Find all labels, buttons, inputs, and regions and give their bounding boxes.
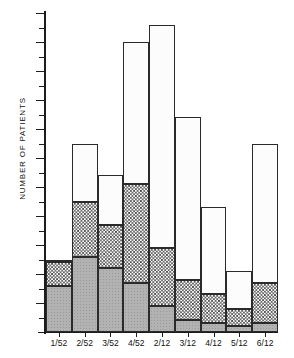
bar-segment-bottom-segment-4-12 xyxy=(201,323,227,332)
plot-area xyxy=(46,13,278,332)
x-tick-5-12 xyxy=(239,333,240,337)
y-tick-minor-25 xyxy=(39,260,45,261)
bar-2-12 xyxy=(149,25,175,332)
bar-segment-top-segment-2-12 xyxy=(149,25,175,248)
bar-segment-top-segment-1-52 xyxy=(46,260,72,263)
bar-4-12 xyxy=(201,207,227,332)
y-tick-60 xyxy=(36,158,45,159)
y-axis-title: NUMBER OF PATIENTS xyxy=(18,69,27,229)
x-tick-2-12 xyxy=(162,333,163,337)
bar-segment-bottom-segment-3-12 xyxy=(175,320,201,332)
bar-segment-top-segment-3-12 xyxy=(175,117,201,279)
bar-segment-middle-segment-2-52 xyxy=(72,202,98,257)
x-tick-label-3-52: 3/52 xyxy=(98,338,124,348)
bar-segment-top-segment-4-52 xyxy=(123,42,149,184)
bar-segment-middle-segment-1-52 xyxy=(46,262,72,285)
y-tick-minor-105 xyxy=(39,28,45,29)
bar-segment-bottom-segment-3-52 xyxy=(98,268,124,332)
bar-segment-bottom-segment-5-12 xyxy=(226,326,252,332)
bar-segment-middle-segment-6-12 xyxy=(252,283,278,324)
x-tick-6-12 xyxy=(265,333,266,337)
bar-3-52 xyxy=(98,175,124,332)
y-tick-80 xyxy=(36,100,45,101)
x-tick-label-4-52: 4/52 xyxy=(123,338,149,348)
x-tick-label-2-52: 2/52 xyxy=(72,338,98,348)
bar-segment-top-segment-2-52 xyxy=(72,144,98,202)
bar-segment-top-segment-5-12 xyxy=(226,271,252,309)
y-tick-minor-15 xyxy=(39,289,45,290)
x-tick-2-52 xyxy=(85,333,86,337)
y-tick-40 xyxy=(36,216,45,217)
bar-segment-bottom-segment-1-52 xyxy=(46,286,72,332)
bar-2-52 xyxy=(72,144,98,333)
bar-6-12 xyxy=(252,144,278,333)
x-tick-4-52 xyxy=(136,333,137,337)
y-tick-110 xyxy=(36,13,45,14)
y-tick-70 xyxy=(36,129,45,130)
bar-segment-top-segment-6-12 xyxy=(252,144,278,283)
x-tick-3-52 xyxy=(110,333,111,337)
bar-segment-bottom-segment-2-52 xyxy=(72,257,98,332)
x-tick-label-6-12: 6/12 xyxy=(252,338,278,348)
bar-segment-middle-segment-3-52 xyxy=(98,225,124,269)
x-tick-1-52 xyxy=(59,333,60,337)
y-tick-minor-95 xyxy=(39,57,45,58)
x-tick-3-12 xyxy=(188,333,189,337)
x-tick-label-3-12: 3/12 xyxy=(175,338,201,348)
bar-segment-bottom-segment-2-12 xyxy=(149,306,175,332)
bar-4-52 xyxy=(123,42,149,332)
y-tick-minor-65 xyxy=(39,144,45,145)
y-tick-minor-45 xyxy=(39,202,45,203)
x-tick-label-5-12: 5/12 xyxy=(226,338,252,348)
y-tick-100 xyxy=(36,42,45,43)
x-tick-label-2-12: 2/12 xyxy=(149,338,175,348)
bar-segment-middle-segment-4-12 xyxy=(201,294,227,323)
bar-segment-bottom-segment-4-52 xyxy=(123,283,149,332)
y-tick-10 xyxy=(36,303,45,304)
x-tick-label-1-52: 1/52 xyxy=(46,338,72,348)
bar-segment-top-segment-4-12 xyxy=(201,207,227,294)
bar-segment-middle-segment-4-52 xyxy=(123,184,149,283)
bar-segment-middle-segment-3-12 xyxy=(175,280,201,321)
y-tick-minor-35 xyxy=(39,231,45,232)
bar-segment-bottom-segment-6-12 xyxy=(252,323,278,332)
bar-3-12 xyxy=(175,117,201,332)
y-tick-minor-5 xyxy=(39,318,45,319)
bar-1-52 xyxy=(46,260,72,333)
x-tick-4-12 xyxy=(214,333,215,337)
y-tick-30 xyxy=(36,245,45,246)
bar-5-12 xyxy=(226,271,252,332)
y-tick-20 xyxy=(36,274,45,275)
bar-segment-middle-segment-5-12 xyxy=(226,309,252,326)
y-tick-minor-55 xyxy=(39,173,45,174)
bar-segment-middle-segment-2-12 xyxy=(149,248,175,306)
y-tick-50 xyxy=(36,187,45,188)
y-tick-minor-85 xyxy=(39,86,45,87)
y-tick-minor-75 xyxy=(39,115,45,116)
y-tick-90 xyxy=(36,71,45,72)
bar-segment-top-segment-3-52 xyxy=(98,175,124,224)
x-tick-label-4-12: 4/12 xyxy=(201,338,227,348)
y-tick-0 xyxy=(38,332,45,333)
stacked-bar-chart: NUMBER OF PATIENTS 102030405060708090100… xyxy=(0,0,294,358)
